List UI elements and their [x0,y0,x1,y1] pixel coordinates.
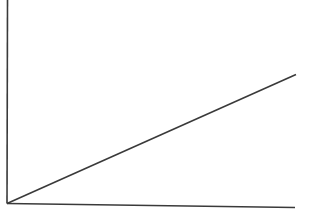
diagonal-line [7,75,296,204]
y-axis [7,0,8,204]
diagram-canvas [0,0,325,216]
x-axis [7,204,295,208]
